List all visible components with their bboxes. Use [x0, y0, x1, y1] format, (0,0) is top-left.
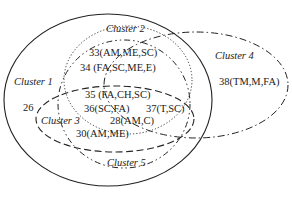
cluster-4-label: Cluster 4: [215, 50, 254, 62]
cluster-venn-diagram: Cluster 2 Cluster 4 Cluster 1 Cluster 3 …: [0, 0, 292, 197]
node-34: 34 (FA,SC,ME,E): [80, 62, 156, 74]
cluster-3-label: Cluster 3: [41, 115, 80, 127]
cluster-2-label: Cluster 2: [106, 23, 145, 35]
cluster-5-label: Cluster 5: [107, 157, 146, 169]
node-36: 36(SC,FA): [84, 103, 130, 115]
node-37: 37(T,SC): [146, 103, 185, 115]
node-35: 35 (FA,CH,SC): [85, 89, 150, 101]
node-33: 33(AM,ME,SC): [89, 47, 157, 59]
node-30: 30(AM,ME): [76, 128, 129, 140]
node-38: 38(TM,M,FA): [219, 76, 279, 88]
cluster-1-label: Cluster 1: [14, 76, 53, 88]
node-28: 28(AM,C): [110, 115, 154, 127]
node-26: 26: [23, 102, 34, 114]
